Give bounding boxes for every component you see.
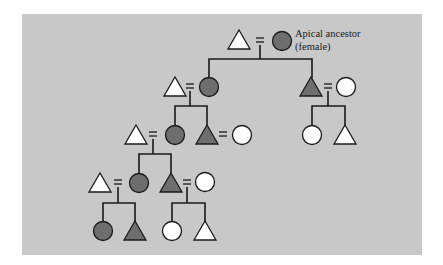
marriage-equals-icon bbox=[324, 84, 332, 88]
gen3-nonmember-son-triangle-icon bbox=[334, 125, 356, 144]
marriage-equals-icon bbox=[219, 132, 227, 136]
apical-ancestor-sublabel: (female) bbox=[295, 41, 331, 53]
marriage-equals-icon bbox=[114, 180, 122, 184]
marriage-equals-icon bbox=[149, 132, 157, 136]
apical-ancestor-circle-icon bbox=[273, 32, 292, 51]
gen4-daughter-circle-icon bbox=[130, 174, 149, 193]
gen3-nonmember-daughter-circle-icon bbox=[303, 126, 322, 145]
gen4-husband-triangle-icon bbox=[89, 173, 111, 192]
gen2-daughter-circle-icon bbox=[200, 78, 219, 97]
marriage-equals-icon bbox=[186, 84, 194, 88]
gen5-nonmember-son-triangle-icon bbox=[194, 221, 216, 240]
marriage-equals-icon bbox=[256, 38, 264, 42]
gen5-member-son-triangle-icon bbox=[124, 221, 146, 240]
gen3-son-triangle-icon bbox=[196, 125, 218, 144]
kinship-diagram: Apical ancestor (female) bbox=[0, 0, 443, 265]
apical-ancestor-label: Apical ancestor bbox=[295, 28, 361, 39]
gen5-nonmember-daughter-circle-icon bbox=[163, 222, 182, 241]
gen5-member-daughter-circle-icon bbox=[94, 222, 113, 241]
gen2-wife-circle-icon bbox=[337, 78, 356, 97]
marriage-equals-icon bbox=[183, 180, 191, 184]
gen2-husband-triangle-icon bbox=[164, 77, 186, 96]
gen3-husband-triangle-icon bbox=[125, 125, 147, 144]
gen4-wife-circle-icon bbox=[196, 173, 215, 192]
gen3-wife-circle-icon bbox=[233, 126, 252, 145]
gen2-son-triangle-icon bbox=[300, 77, 322, 96]
gen1-husband-triangle-icon bbox=[228, 30, 250, 49]
gen3-daughter-circle-icon bbox=[166, 126, 185, 145]
gen4-son-triangle-icon bbox=[160, 173, 182, 192]
